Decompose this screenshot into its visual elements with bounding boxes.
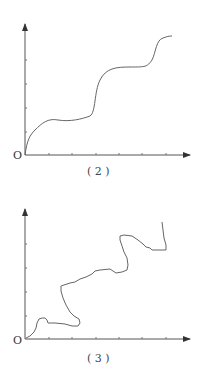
- origin-label-2: O: [13, 149, 22, 162]
- figure-caption-3: ( 3 ): [87, 352, 110, 365]
- curve-line: [25, 36, 172, 155]
- curve-line: [26, 222, 166, 338]
- figure-2: [25, 24, 190, 155]
- figure-3: [25, 209, 190, 339]
- figure-canvas: [0, 0, 201, 389]
- figure-caption-2: ( 2 ): [87, 165, 110, 178]
- origin-label-3: O: [13, 334, 22, 347]
